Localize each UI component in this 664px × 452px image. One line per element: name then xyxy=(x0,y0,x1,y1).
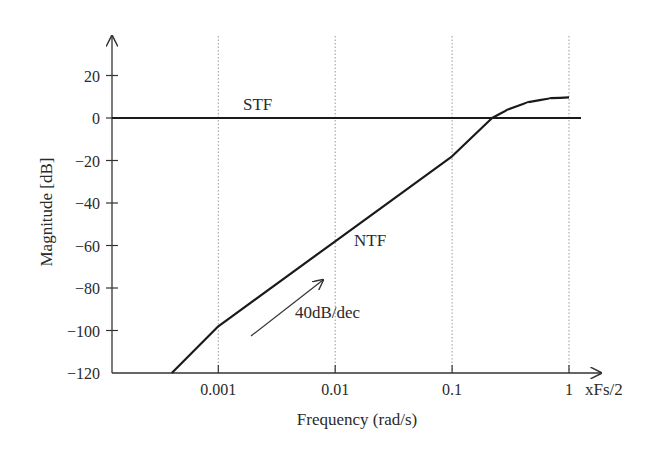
y-tick-label: −20 xyxy=(75,153,100,170)
axes xyxy=(112,36,601,373)
series-lines xyxy=(112,97,581,373)
y-axis-ticks: 200−20−40−60−80−100−120 xyxy=(67,68,118,383)
chart-canvas: 200−20−40−60−80−100−120 0.0010.010.11 ST… xyxy=(0,0,664,452)
x-axis-label: Frequency (rad/s) xyxy=(297,410,417,429)
x-axis-unit: xFs/2 xyxy=(585,380,623,399)
stf-label: STF xyxy=(243,95,272,114)
y-tick-label: −60 xyxy=(75,238,100,255)
x-tick-label: 0.01 xyxy=(321,381,349,398)
y-tick-label: 20 xyxy=(84,68,100,85)
x-axis-ticks: 0.0010.010.11 xyxy=(200,365,573,398)
x-tick-label: 0.1 xyxy=(442,381,462,398)
y-tick-label: −100 xyxy=(67,323,100,340)
vertical-gridlines xyxy=(218,36,569,373)
y-tick-label: −80 xyxy=(75,280,100,297)
x-tick-label: 0.001 xyxy=(200,381,236,398)
y-axis-label: Magnitude [dB] xyxy=(37,157,56,266)
x-tick-label: 1 xyxy=(565,381,573,398)
y-tick-label: −120 xyxy=(67,365,100,382)
y-tick-label: −40 xyxy=(75,195,100,212)
slope-label: 40dB/dec xyxy=(295,303,361,322)
ntf-label: NTF xyxy=(354,231,386,250)
y-tick-label: 0 xyxy=(92,110,100,127)
